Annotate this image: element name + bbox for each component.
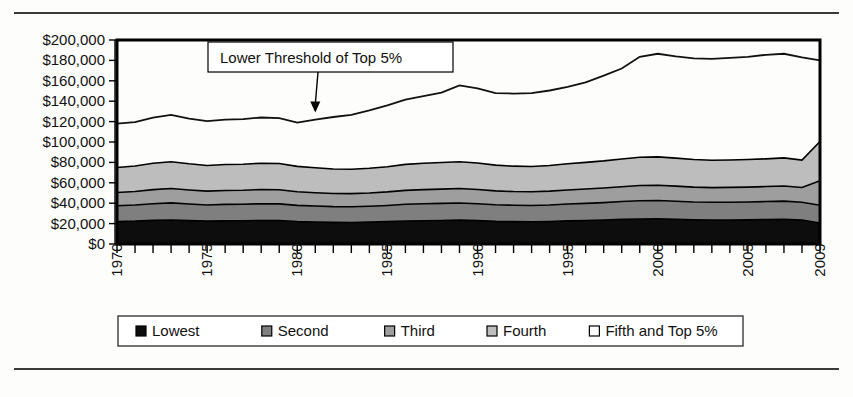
legend-label-third[interactable]: Third: [401, 322, 435, 339]
chart-area-bands: [117, 141, 820, 244]
y-axis-tick-label: $40,000: [51, 194, 105, 211]
y-axis-tick-label: $80,000: [51, 153, 105, 170]
x-axis-tick-label: 1980: [288, 243, 305, 276]
y-axis-tick-label: $200,000: [42, 31, 105, 48]
legend-swatch-fifth-and-top-5-[interactable]: [589, 326, 599, 336]
chart-legend: LowestSecondThirdFourthFifth and Top 5%: [118, 316, 743, 346]
legend-label-fifth-and-top-5-[interactable]: Fifth and Top 5%: [605, 322, 717, 339]
y-axis-tick-label: $120,000: [42, 113, 105, 130]
legend-label-fourth[interactable]: Fourth: [503, 322, 546, 339]
legend-swatch-second[interactable]: [262, 326, 272, 336]
y-axis-tick-label: $140,000: [42, 92, 105, 109]
x-axis-tick-label: 1995: [559, 243, 576, 276]
y-axis-tick-label: $0: [88, 235, 105, 252]
callout-arrow-head: [310, 101, 320, 112]
y-axis-tick-label: $160,000: [42, 72, 105, 89]
legend-swatch-third[interactable]: [385, 326, 395, 336]
callout-text: Lower Threshold of Top 5%: [220, 49, 402, 66]
x-axis-tick-label: 2009: [811, 243, 828, 276]
page-rule-bottom: [14, 368, 839, 370]
legend-swatch-fourth[interactable]: [487, 326, 497, 336]
x-axis-tick-label: 1990: [469, 243, 486, 276]
x-axis-tick-label: 2005: [739, 243, 756, 276]
legend-label-lowest[interactable]: Lowest: [152, 322, 200, 339]
area-band-lowest: [117, 219, 820, 244]
legend-swatch-lowest[interactable]: [136, 326, 146, 336]
x-axis-tick-label: 1970: [108, 243, 125, 276]
callout-arrow-line: [315, 72, 318, 104]
y-axis-tick-label: $20,000: [51, 215, 105, 232]
x-axis-tick-label: 2000: [649, 243, 666, 276]
page-rule-top: [14, 12, 839, 14]
y-axis-tick-label: $100,000: [42, 133, 105, 150]
chart-canvas: $200,000$180,000$160,000$140,000$120,000…: [0, 24, 853, 364]
scanned-page: $200,000$180,000$160,000$140,000$120,000…: [0, 0, 853, 397]
x-axis: 197019751980198519901995200020052009: [108, 243, 828, 276]
x-axis-tick-label: 1975: [198, 243, 215, 276]
legend-label-second[interactable]: Second: [278, 322, 329, 339]
y-axis-tick-label: $180,000: [42, 51, 105, 68]
annotation-callout: Lower Threshold of Top 5%: [208, 42, 453, 112]
stacked-area-chart: $200,000$180,000$160,000$140,000$120,000…: [0, 24, 853, 364]
y-axis-tick-label: $60,000: [51, 174, 105, 191]
x-axis-tick-label: 1985: [378, 243, 395, 276]
